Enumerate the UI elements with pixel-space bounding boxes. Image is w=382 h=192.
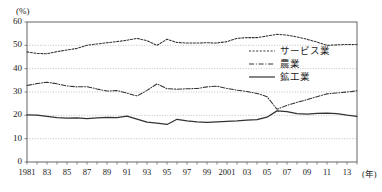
- y-tick-label: 20: [0, 109, 22, 119]
- x-tick-label: 11: [323, 167, 331, 177]
- y-tick-label: 0: [0, 156, 22, 166]
- legend-label-agriculture: 農業: [280, 59, 300, 69]
- legend-swatch-dashdot-icon: [249, 60, 275, 68]
- x-tick-label: 13: [343, 167, 352, 177]
- x-tick-label: 87: [83, 167, 92, 177]
- line-chart-plot: [0, 0, 382, 192]
- chart-container: (%) 0102030405060 1981838587899193959799…: [0, 0, 382, 192]
- y-tick-label: 10: [0, 133, 22, 143]
- x-tick-label: 03: [243, 167, 252, 177]
- legend-label-service: サービス業: [280, 46, 330, 56]
- x-tick-label: 2001: [219, 167, 236, 177]
- x-tick-label: 95: [163, 167, 172, 177]
- y-tick-label: 40: [0, 63, 22, 73]
- x-tick-label: 99: [203, 167, 212, 177]
- y-tick-label: 50: [0, 39, 22, 49]
- chart-legend: サービス業 農業 鉱工業: [249, 44, 349, 83]
- legend-swatch-dotted-icon: [249, 47, 275, 55]
- x-tick-label: 91: [123, 167, 132, 177]
- x-tick-label: 09: [303, 167, 312, 177]
- series-line-2: [27, 111, 357, 125]
- x-tick-label: 1981: [19, 167, 36, 177]
- x-tick-label: 07: [283, 167, 292, 177]
- legend-swatch-solid-icon: [249, 73, 275, 81]
- x-tick-label: 97: [183, 167, 192, 177]
- legend-label-mining: 鉱工業: [280, 72, 310, 82]
- y-tick-label: 60: [0, 16, 22, 26]
- x-tick-label: 83: [43, 167, 52, 177]
- series-line-1: [27, 82, 357, 109]
- legend-item-agriculture: 農業: [249, 57, 349, 70]
- x-tick-label: 89: [103, 167, 112, 177]
- x-tick-label: 05: [263, 167, 272, 177]
- legend-item-mining: 鉱工業: [249, 70, 349, 83]
- y-tick-label: 30: [0, 86, 22, 96]
- legend-item-service: サービス業: [249, 44, 349, 57]
- x-axis-unit-label: (年): [362, 167, 377, 179]
- x-tick-label: 85: [63, 167, 72, 177]
- x-tick-label: 93: [143, 167, 152, 177]
